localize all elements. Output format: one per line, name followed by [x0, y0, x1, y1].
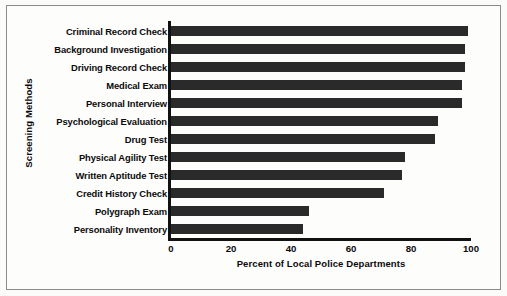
bar	[171, 224, 303, 234]
bar	[171, 80, 462, 90]
x-axis-tick-labels: 020406080100	[171, 242, 471, 255]
x-axis-tick-label: 100	[448, 242, 494, 255]
y-axis-tick-labels: Criminal Record CheckBackground Investig…	[28, 22, 167, 238]
bar	[171, 134, 435, 144]
x-axis-tick-label: 40	[268, 242, 314, 255]
bar	[171, 98, 462, 108]
bar	[171, 188, 384, 198]
bar	[171, 152, 405, 162]
bar-chart-figure: Screening Methods Criminal Record CheckB…	[0, 0, 507, 296]
y-axis-tick-label: Medical Exam	[28, 80, 167, 91]
bar	[171, 26, 468, 36]
y-axis-tick-label: Credit History Check	[28, 188, 167, 199]
y-axis-tick-label: Physical Agility Test	[28, 152, 167, 163]
plot-area	[171, 22, 471, 238]
x-axis-tick-label: 20	[208, 242, 254, 255]
y-axis-tick-label: Personality Inventory	[28, 224, 167, 235]
y-axis-tick-label: Polygraph Exam	[28, 206, 167, 217]
y-axis-tick-label: Criminal Record Check	[28, 26, 167, 37]
y-axis-tick-label: Driving Record Check	[28, 62, 167, 73]
bar	[171, 170, 402, 180]
y-axis-tick-label: Written Aptitude Test	[28, 170, 167, 181]
x-axis-tick-label: 0	[148, 242, 194, 255]
y-axis-tick-label: Background Investigation	[28, 44, 167, 55]
bar	[171, 44, 465, 54]
x-axis-line	[168, 238, 471, 241]
y-axis-tick-label: Psychological Evaluation	[28, 116, 167, 127]
bar	[171, 62, 465, 72]
y-axis-tick-label: Drug Test	[28, 134, 167, 145]
y-axis-tick-label: Personal Interview	[28, 98, 167, 109]
x-axis-tick-label: 60	[328, 242, 374, 255]
x-axis-title: Percent of Local Police Departments	[171, 258, 471, 269]
bar	[171, 116, 438, 126]
bar	[171, 206, 309, 216]
x-axis-tick-label: 80	[388, 242, 434, 255]
